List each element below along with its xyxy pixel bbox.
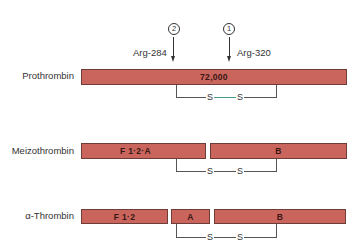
sulfur-atom-left: S [206,92,214,102]
disulfide-line-right [244,97,277,98]
row-label-prothrombin: Prothrombin [0,70,74,82]
arrow-head-icon [227,56,231,62]
segment-f12: F 1·2 [81,209,168,224]
segment-label: 72,000 [200,72,228,82]
disulfide-line-middle [214,97,236,98]
sulfur-atom-right: S [236,232,244,242]
cleavage-site-label-arg284: Arg-284 [133,47,167,59]
segment-prothrombin-full: 72,000 [81,69,347,85]
disulfide-bracket-right [276,224,277,237]
cleavage-arrow-1 [229,37,230,57]
disulfide-line-left [176,97,206,98]
disulfide-line [176,171,277,172]
sulfur-atom-right: S [236,92,244,102]
segment-label: F 1·2·A [120,146,151,156]
cleavage-site-label-arg320: Arg-320 [237,47,271,59]
segment-b: B [214,209,346,224]
row-label-alpha-thrombin: α-Thrombin [0,210,74,222]
disulfide-bracket-left [176,159,177,171]
site-number-2-circle: 2 [168,23,180,35]
disulfide-bracket-right [276,159,277,171]
disulfide-bracket-left [176,224,177,237]
sulfur-atom-left: S [206,166,214,176]
segment-label: F 1·2 [114,212,135,222]
site-number-1-circle: 1 [223,23,235,35]
segment-a: A [171,209,210,224]
segment-b: B [210,143,347,159]
disulfide-bracket-right [276,85,277,97]
segment-label: B [275,146,281,156]
segment-f12a: F 1·2·A [81,143,206,159]
arrow-head-icon [171,56,175,62]
sulfur-atom-left: S [206,232,214,242]
cleavage-arrow-2 [173,37,174,57]
disulfide-line [176,237,277,238]
row-label-meizothrombin: Meizothrombin [0,145,74,157]
disulfide-bracket-left [176,85,177,97]
segment-label: A [187,212,193,222]
segment-label: B [277,212,283,222]
sulfur-atom-right: S [236,166,244,176]
